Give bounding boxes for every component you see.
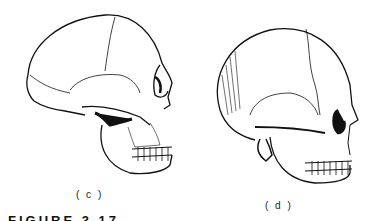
panel-label-d: ( d ) [265, 200, 293, 211]
figure-caption-text: FIGURE 3.17 [8, 214, 128, 221]
panel-label-c: ( c ) [76, 189, 103, 200]
figure-caption: FIGURE 3.17 [8, 214, 128, 221]
skull-illustration-c [10, 5, 175, 175]
skull-illustration-d [200, 15, 360, 185]
